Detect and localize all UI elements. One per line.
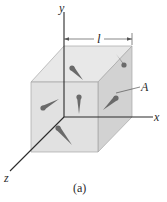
figure-caption: (a) xyxy=(73,181,86,195)
dimension-label: l xyxy=(97,31,101,46)
cube-diagram: l A y x z (a) xyxy=(0,0,167,202)
surface-label: A xyxy=(140,80,149,94)
y-axis-label: y xyxy=(58,1,65,15)
x-axis-label: x xyxy=(153,110,160,124)
dimension-l: l xyxy=(64,31,132,46)
z-axis-label: z xyxy=(3,171,9,185)
